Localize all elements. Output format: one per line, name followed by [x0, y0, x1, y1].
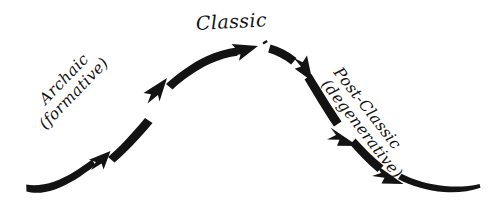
arc-segment-rising-a: [26, 160, 95, 193]
arc-segment-tail: [398, 174, 481, 192]
arc-segment-apex-a: [166, 48, 238, 90]
arc-curve-graphic: [0, 0, 500, 218]
hand-drawn-arc-diagram: Archaic (formative) Classic Post-Classic…: [0, 0, 500, 218]
stage-label-classic-line1: Classic: [195, 8, 267, 34]
arc-segment-rising-b: [108, 118, 153, 163]
stage-label-classic: Classic: [195, 10, 267, 34]
arc-segment-apex-b: [268, 45, 296, 65]
arrowhead-icon-2: [144, 78, 168, 104]
pen-lift-tick: [263, 40, 268, 45]
